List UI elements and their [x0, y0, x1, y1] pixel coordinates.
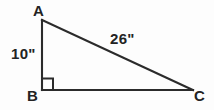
side-length-label-ac: 26" [110, 31, 135, 46]
side-length-label-ab: 10" [11, 46, 36, 61]
vertex-label-b: B [27, 88, 38, 103]
vertex-label-c: C [194, 88, 205, 103]
right-angle-marker-icon [43, 79, 54, 90]
vertex-label-a: A [33, 3, 44, 18]
geometry-figure: A B C 10" 26" [0, 0, 214, 110]
